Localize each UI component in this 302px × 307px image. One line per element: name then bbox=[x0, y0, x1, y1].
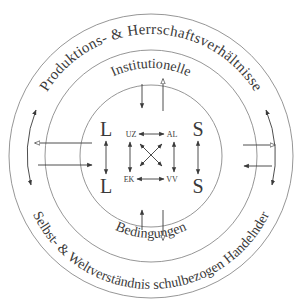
outer-ring-bottom-label: Selbst- & Weltverständnis schulbezogen H… bbox=[30, 209, 272, 292]
label-s-top: S bbox=[192, 118, 203, 140]
label-s-bottom: S bbox=[192, 175, 203, 197]
node-uz: UZ bbox=[126, 130, 137, 139]
node-vv: VV bbox=[166, 175, 178, 184]
label-l-top: L bbox=[100, 118, 112, 140]
left-curved-double-arrow-icon bbox=[27, 110, 36, 185]
inner-ring bbox=[80, 85, 222, 227]
nested-circles-diagram: Produktions- & Herrschaftsverhältnisse S… bbox=[0, 0, 302, 307]
right-curved-double-arrow-icon bbox=[266, 110, 275, 185]
middle-ring-bottom-label: Bedingungen bbox=[114, 219, 189, 241]
label-l-bottom: L bbox=[100, 175, 112, 197]
node-ek: EK bbox=[124, 175, 135, 184]
middle-ring-top-label: Institutionelle bbox=[108, 56, 193, 79]
node-al: AL bbox=[167, 130, 178, 139]
